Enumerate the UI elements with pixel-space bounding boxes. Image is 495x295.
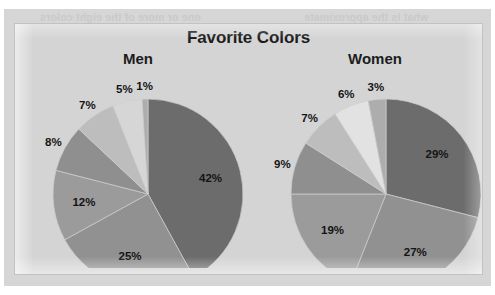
pie-slice-label: 27% [404, 246, 427, 258]
scanned-paper: one or more of the eight colors what is … [4, 9, 491, 286]
pie-slice-label: 6% [338, 88, 355, 100]
panel-title-women: Women [315, 50, 435, 67]
pie-slice-label: 25% [118, 250, 141, 262]
ghost-text-line1-right: what is the approximate [304, 11, 428, 23]
pie-slice-label: 7% [79, 99, 96, 111]
pie-chart-men: 42%25%12%8%7%5%1% [35, 68, 261, 268]
pie-slice-label: 9% [274, 158, 291, 170]
pie-slice-label: 42% [199, 172, 222, 184]
pie-slice-label: 7% [301, 112, 318, 124]
pie-slice-label: 29% [425, 148, 448, 160]
pie-chart-women: 29%27%19%9%7%6%3% [273, 68, 483, 268]
panel-title-men: Men [78, 50, 198, 67]
figure-frame: Favorite Colors Men Women 42%25%12%8%7%5… [14, 23, 483, 275]
pie-slice-label: 19% [321, 224, 344, 236]
ghost-text-line1-left: one or more of the eight colors [40, 11, 201, 23]
pie-women-slices [291, 99, 481, 268]
pie-slice-label: 3% [367, 81, 384, 93]
figure-page: one or more of the eight colors what is … [0, 0, 495, 295]
pie-slice-label: 1% [136, 80, 153, 92]
pie-slice-label: 5% [116, 83, 133, 95]
pie-slice-label: 8% [45, 136, 62, 148]
chart-title: Favorite Colors [15, 28, 482, 48]
pie-slice-label: 12% [72, 196, 95, 208]
